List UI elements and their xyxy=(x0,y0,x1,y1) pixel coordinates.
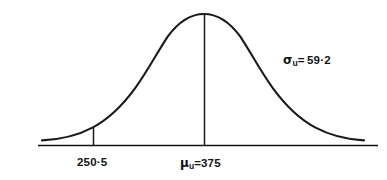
sigma-annotation: σu= 59·2 xyxy=(283,54,331,67)
distribution-plot xyxy=(0,0,387,180)
sigma-symbol: σ xyxy=(283,53,293,67)
bell-curve-path xyxy=(42,14,364,140)
mu-equals: = xyxy=(194,157,201,169)
sigma-equals: = xyxy=(298,54,305,66)
normal-distribution-figure: σu= 59·2 μu=375 250·5 xyxy=(0,0,387,180)
mean-axis-label: μu=375 xyxy=(180,157,221,170)
mu-value: 375 xyxy=(201,157,221,169)
tick-label-250-5: 250·5 xyxy=(77,157,107,169)
sigma-value: 59·2 xyxy=(307,54,331,66)
mu-symbol: μ xyxy=(180,156,189,170)
